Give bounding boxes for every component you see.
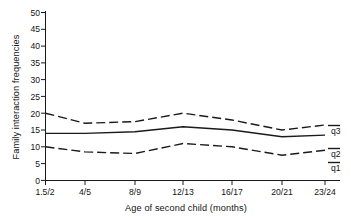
- y-tick-label-20: 20: [14, 110, 40, 119]
- y-tick-label-50: 50: [14, 9, 40, 18]
- y-tick-label-25: 25: [14, 93, 40, 102]
- x-tick-label-7: 23/24: [298, 188, 351, 197]
- series-line-q2: [46, 127, 326, 137]
- x-tick-label-4: 12/13: [156, 188, 210, 197]
- series-label-q3: q3: [331, 127, 341, 136]
- y-tick-label-40: 40: [14, 42, 40, 51]
- y-tick-label-35: 35: [14, 59, 40, 68]
- line-chart-figure: Family interaction frequencies Age of se…: [0, 0, 351, 220]
- y-tick-marks: [41, 13, 45, 181]
- y-tick-label-0: 0: [14, 177, 40, 186]
- x-tick-marks: [46, 181, 326, 185]
- x-axis-title: Age of second child (months): [45, 203, 327, 213]
- y-tick-label-30: 30: [14, 76, 40, 85]
- series-label-q2: q2: [331, 150, 341, 159]
- x-tick-label-2: 4/5: [58, 188, 112, 197]
- y-tick-label-10: 10: [14, 143, 40, 152]
- y-tick-label-45: 45: [14, 25, 40, 34]
- series-label-q1: q1: [331, 164, 341, 173]
- x-tick-label-5: 16/17: [205, 188, 259, 197]
- x-tick-label-3: 8/9: [108, 188, 162, 197]
- series-line-q1: [46, 144, 326, 156]
- y-tick-label-15: 15: [14, 126, 40, 135]
- y-tick-label-5: 5: [14, 160, 40, 169]
